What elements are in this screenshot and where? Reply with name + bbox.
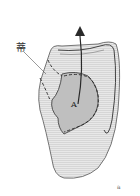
pedicle-label: 蒂 (16, 43, 26, 53)
ear-flap-diagram (0, 0, 140, 196)
flap-label: A (71, 101, 77, 109)
arrow-head-icon (75, 26, 85, 36)
pedicle-leader-line (24, 52, 46, 74)
panel-label: a (117, 184, 121, 190)
